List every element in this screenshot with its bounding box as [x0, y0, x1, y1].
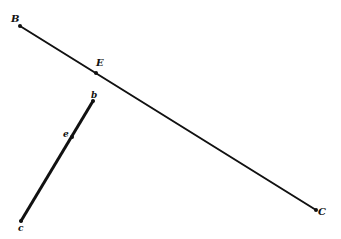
label-B: B	[10, 13, 19, 24]
label-b: b	[91, 90, 97, 100]
geometry-diagram: B E C b e c	[0, 0, 341, 239]
segment-BC	[20, 26, 316, 210]
label-e: e	[63, 129, 69, 139]
label-c: c	[18, 223, 24, 233]
point-e	[70, 135, 74, 139]
point-B	[18, 24, 22, 28]
segment-bc	[21, 101, 93, 221]
label-E: E	[95, 57, 104, 68]
label-C: C	[318, 206, 326, 217]
point-E	[94, 71, 98, 75]
